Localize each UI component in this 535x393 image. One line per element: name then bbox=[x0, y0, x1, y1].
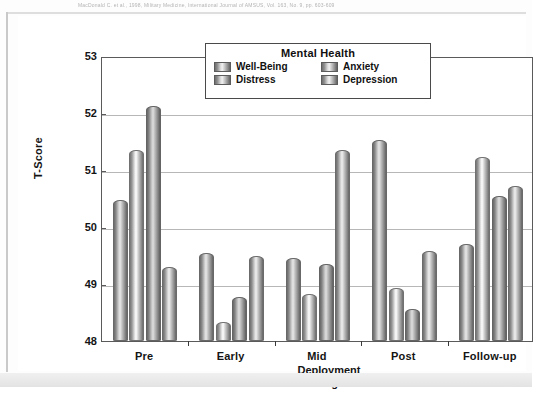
legend-label: Anxiety bbox=[343, 61, 379, 72]
bar bbox=[113, 200, 128, 341]
bar-group bbox=[361, 58, 447, 341]
page-bottom-shade bbox=[0, 373, 532, 387]
y-axis-tick-label: 52 bbox=[61, 107, 97, 119]
legend-label: Depression bbox=[343, 74, 397, 85]
y-axis-tick-label: 50 bbox=[61, 221, 97, 233]
bar bbox=[129, 150, 144, 341]
bar bbox=[389, 288, 404, 341]
legend-swatch-icon bbox=[214, 62, 231, 72]
legend-label: Well-Being bbox=[236, 61, 287, 72]
plot-area bbox=[101, 57, 533, 342]
citation-text: MacDonald C. et al., 1998, Military Medi… bbox=[0, 0, 532, 10]
page-left-rule bbox=[6, 12, 8, 372]
figure-frame: T-Score 484950515253 PreEarlyMidPostFoll… bbox=[18, 16, 526, 371]
chart-legend: Mental Health Well-BeingAnxietyDistressD… bbox=[205, 43, 431, 99]
legend-title: Mental Health bbox=[206, 47, 430, 59]
legend-items: Well-BeingAnxietyDistressDepression bbox=[206, 59, 430, 85]
bar bbox=[286, 258, 301, 341]
legend-item: Depression bbox=[321, 74, 424, 85]
bar bbox=[492, 196, 507, 341]
bar bbox=[372, 140, 387, 341]
x-axis-category-label: Pre bbox=[99, 350, 189, 362]
bar bbox=[335, 150, 350, 341]
x-axis-tick-mark bbox=[448, 341, 449, 346]
bar bbox=[459, 244, 474, 341]
bar-group bbox=[448, 58, 534, 341]
legend-item: Anxiety bbox=[321, 61, 424, 72]
bar bbox=[475, 157, 490, 341]
bar bbox=[232, 297, 247, 341]
legend-swatch-icon bbox=[321, 62, 338, 72]
bar bbox=[319, 264, 334, 341]
y-axis-tick-label: 49 bbox=[61, 278, 97, 290]
bar bbox=[508, 186, 523, 341]
bar bbox=[405, 309, 420, 341]
y-axis-tick-label: 48 bbox=[61, 335, 97, 347]
legend-item: Distress bbox=[214, 74, 317, 85]
y-axis-tick-mark bbox=[101, 228, 106, 229]
x-axis-tick-mark bbox=[188, 341, 189, 346]
legend-label: Distress bbox=[236, 74, 275, 85]
bar bbox=[302, 294, 317, 341]
x-axis-tick-mark bbox=[361, 341, 362, 346]
x-axis-category-label: Follow-up bbox=[445, 350, 535, 362]
bar bbox=[146, 106, 161, 341]
y-axis-tick-label: 51 bbox=[61, 164, 97, 176]
y-axis-tick-mark bbox=[101, 114, 106, 115]
bar bbox=[216, 322, 231, 341]
legend-swatch-icon bbox=[321, 75, 338, 85]
bar bbox=[249, 256, 264, 342]
bar-group bbox=[275, 58, 361, 341]
x-axis-category-label: Early bbox=[186, 350, 276, 362]
y-axis-tick-mark bbox=[101, 285, 106, 286]
x-axis-category-label: Post bbox=[358, 350, 448, 362]
x-axis-category-label: Mid bbox=[272, 350, 362, 362]
bar bbox=[199, 253, 214, 341]
legend-item: Well-Being bbox=[214, 61, 317, 72]
legend-swatch-icon bbox=[214, 75, 231, 85]
y-axis-tick-label: 53 bbox=[61, 50, 97, 62]
bar-group bbox=[102, 58, 188, 341]
y-axis-title: T-Score bbox=[32, 137, 44, 179]
x-axis-tick-mark bbox=[275, 341, 276, 346]
bar bbox=[162, 267, 177, 341]
bar-group bbox=[188, 58, 274, 341]
y-axis-tick-mark bbox=[101, 171, 106, 172]
page-top-rule bbox=[6, 12, 526, 14]
y-axis-tick-labels: 484950515253 bbox=[58, 16, 97, 393]
bar bbox=[422, 251, 437, 341]
